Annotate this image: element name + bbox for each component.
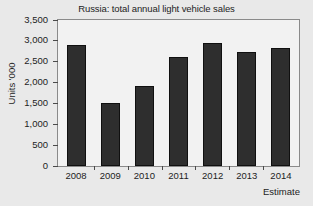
bar-series (58, 20, 299, 166)
bar-slot (128, 20, 162, 166)
y-tick-label: 500 (32, 139, 48, 150)
bar (271, 48, 290, 166)
x-tick-label: 2014 (264, 170, 298, 184)
y-tick-label: 2,500 (24, 55, 48, 66)
chart-figure: Russia: total annual light vehicle sales… (0, 0, 313, 206)
bar (101, 103, 120, 166)
y-tick-label: 3,000 (24, 34, 48, 45)
bar-slot (263, 20, 297, 166)
y-tick-label: 3,500 (24, 14, 48, 25)
bar-slot (229, 20, 263, 166)
bar (135, 86, 154, 167)
y-tick-label: 1,000 (24, 118, 48, 129)
y-axis-label: Units '000 (6, 49, 17, 119)
bar-slot (195, 20, 229, 166)
x-tick-label: 2011 (161, 170, 195, 184)
bar-slot (94, 20, 128, 166)
bar (203, 43, 222, 166)
bar (169, 57, 188, 166)
y-tick-label: 1,500 (24, 97, 48, 108)
x-tick-label: 2012 (196, 170, 230, 184)
bar-slot (60, 20, 94, 166)
x-tick-label: 2013 (230, 170, 264, 184)
x-tick-label: 2008 (59, 170, 93, 184)
x-axis-labels: 2008200920102011201220132014 (57, 170, 300, 184)
y-tick-label: 2,000 (24, 76, 48, 87)
bar (237, 52, 256, 166)
bar-slot (162, 20, 196, 166)
plot-inner: 05001,0001,5002,0002,5003,0003,500 (58, 20, 299, 166)
estimate-annotation: Estimate (263, 186, 300, 197)
chart-title: Russia: total annual light vehicle sales (0, 3, 313, 14)
x-tick-label: 2010 (127, 170, 161, 184)
y-tick-label: 0 (43, 160, 48, 171)
x-tick-label: 2009 (93, 170, 127, 184)
bar (67, 45, 86, 166)
plot-area: 05001,0001,5002,0002,5003,0003,500 (57, 19, 300, 167)
